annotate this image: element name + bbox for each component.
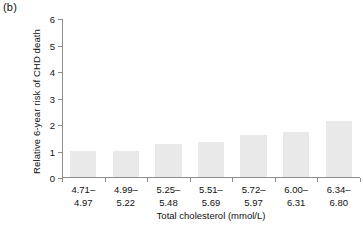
bar — [326, 121, 352, 177]
plot-area: 0123456 4.71–4.974.99–5.225.25–5.485.51–… — [62, 19, 360, 178]
x-tick-label-line: 6.00– — [284, 184, 308, 197]
panel-label: (b) — [3, 1, 17, 13]
x-tick-label-line: 6.31 — [284, 197, 308, 210]
bar — [240, 135, 266, 177]
y-tick-label: 3 — [50, 93, 55, 104]
x-tick-label-line: 5.51– — [199, 184, 223, 197]
y-tick-label: 1 — [50, 146, 55, 157]
x-tick — [232, 178, 233, 182]
x-tick-label: 6.34–6.80 — [327, 184, 351, 209]
x-tick-label-line: 5.69 — [199, 197, 223, 210]
bar — [155, 144, 181, 177]
y-tick-label: 0 — [50, 173, 55, 184]
x-tick-label: 6.00–6.31 — [284, 184, 308, 209]
bar — [113, 151, 139, 178]
x-tick-label: 4.71–4.97 — [71, 184, 95, 209]
x-tick-label-line: 5.72– — [242, 184, 266, 197]
x-tick-label-line: 6.34– — [327, 184, 351, 197]
x-tick — [62, 178, 63, 182]
x-tick — [275, 178, 276, 182]
figure-panel-b: (b) Relative 6-year risk of CHD death 01… — [0, 0, 363, 229]
x-tick-label: 5.72–5.97 — [242, 184, 266, 209]
x-tick-label-line: 4.97 — [71, 197, 95, 210]
y-axis-title: Relative 6-year risk of CHD death — [31, 22, 42, 182]
x-tick — [105, 178, 106, 182]
bar-group — [62, 19, 360, 177]
x-tick-label-line: 5.48 — [157, 197, 181, 210]
x-axis-line — [62, 177, 360, 178]
x-tick-label: 5.51–5.69 — [199, 184, 223, 209]
x-tick — [360, 178, 361, 182]
bar — [198, 142, 224, 177]
y-tick-label: 4 — [50, 67, 55, 78]
x-tick-label-line: 4.99– — [114, 184, 138, 197]
x-tick — [147, 178, 148, 182]
y-tick-label: 5 — [50, 40, 55, 51]
bar — [70, 151, 96, 178]
x-tick-label-line: 4.71– — [71, 184, 95, 197]
x-axis-title: Total cholesterol (mmol/L) — [62, 210, 360, 221]
x-tick — [317, 178, 318, 182]
y-tick-label: 2 — [50, 120, 55, 131]
x-tick-label-line: 6.80 — [327, 197, 351, 210]
x-tick-label: 4.99–5.22 — [114, 184, 138, 209]
y-tick-label: 6 — [50, 14, 55, 25]
x-tick-label-line: 5.97 — [242, 197, 266, 210]
bar — [283, 132, 309, 177]
x-tick — [190, 178, 191, 182]
x-tick-label-line: 5.22 — [114, 197, 138, 210]
x-tick-label: 5.25–5.48 — [157, 184, 181, 209]
x-tick-label-line: 5.25– — [157, 184, 181, 197]
